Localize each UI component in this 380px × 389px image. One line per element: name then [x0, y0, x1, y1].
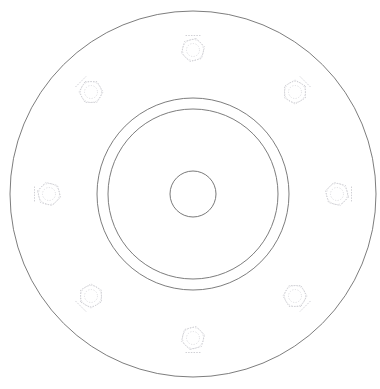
bolt-hole-pattern-group: [35, 36, 352, 353]
bolt-hole-3[interactable]: [325, 182, 351, 205]
bolt-shank-circle: [289, 290, 302, 303]
bolt-shank-circle: [85, 86, 98, 99]
outer-flange-circle: [10, 11, 376, 377]
bolt-hole-8[interactable]: [75, 76, 103, 102]
visible-edges-group: [10, 11, 376, 377]
hex-nut-outline: [283, 286, 307, 307]
bolt-shank-circle: [187, 44, 200, 57]
washer-circle: [285, 286, 306, 307]
washer-circle: [183, 328, 204, 349]
center-bore-circle: [170, 171, 216, 217]
hex-nut-outline: [181, 38, 204, 61]
washer-circle: [327, 184, 348, 205]
hex-nut-outline: [79, 82, 103, 103]
hub-inner-circle: [108, 109, 278, 279]
washer-circle: [183, 40, 204, 61]
hex-nut-outline: [285, 80, 306, 104]
hex-nut-outline: [181, 326, 204, 349]
hub-outer-circle: [97, 98, 289, 290]
bolt-hole-5[interactable]: [181, 326, 204, 352]
washer-circle: [285, 82, 306, 103]
bolt-hole-2[interactable]: [285, 76, 311, 104]
bolt-shank-circle: [43, 188, 56, 201]
bolt-shank-circle: [85, 290, 98, 303]
bolt-shank-circle: [289, 86, 302, 99]
washer-circle: [81, 82, 102, 103]
hex-nut-outline: [37, 182, 60, 205]
bolt-hole-1[interactable]: [181, 36, 204, 62]
washer-circle: [81, 286, 102, 307]
hex-nut-outline: [325, 182, 348, 205]
bolt-shank-circle: [331, 188, 344, 201]
bolt-hole-6[interactable]: [75, 284, 101, 312]
flange-drawing-svg: [0, 0, 380, 389]
bolt-hole-7[interactable]: [35, 182, 61, 205]
flange-drawing-canvas: [0, 0, 380, 389]
hex-nut-outline: [81, 284, 102, 308]
bolt-hole-4[interactable]: [283, 286, 311, 312]
bolt-shank-circle: [187, 332, 200, 345]
washer-circle: [39, 184, 60, 205]
